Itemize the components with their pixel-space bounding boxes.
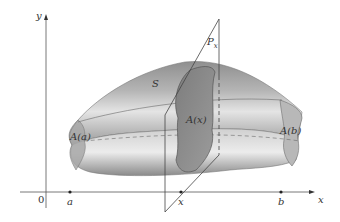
x-axis-arrow-icon [309, 190, 315, 194]
y-axis-arrow-icon [44, 14, 48, 20]
point-x [179, 190, 182, 193]
x-axis-label: x [318, 194, 324, 205]
area-Ab-label: A(b) [280, 125, 301, 136]
plane-label: Px [207, 36, 218, 50]
x-point-label: x [178, 196, 184, 207]
a-label: a [67, 196, 73, 207]
solid-label: S [152, 78, 159, 89]
origin-label: 0 [38, 194, 44, 205]
area-Aa-label: A(a) [70, 131, 91, 142]
b-label: b [278, 196, 284, 207]
point-a [68, 190, 71, 193]
area-Ax-label: A(x) [186, 114, 207, 125]
solid-cross-section-diagram [0, 0, 340, 222]
y-axis-label: y [36, 10, 42, 21]
point-b [279, 190, 282, 193]
